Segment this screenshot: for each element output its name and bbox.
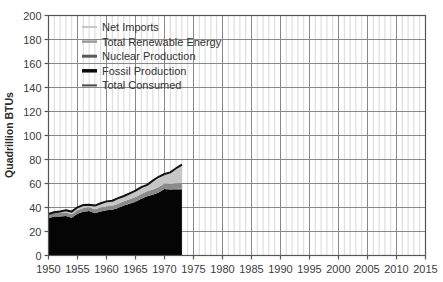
y-tick-label: 200: [23, 10, 41, 22]
x-tick-label: 2000: [326, 263, 350, 275]
y-tick-label: 80: [29, 154, 41, 166]
x-tick-label: 1985: [239, 263, 263, 275]
y-tick-label: 120: [23, 106, 41, 118]
legend-label: Nuclear Production: [102, 50, 196, 62]
y-tick-label: 140: [23, 82, 41, 94]
x-tick-label: 1980: [210, 263, 234, 275]
x-tick-label: 1975: [181, 263, 205, 275]
y-tick-label: 60: [29, 178, 41, 190]
x-tick-label: 1955: [65, 263, 89, 275]
x-tick-label: 2010: [384, 263, 408, 275]
legend-label: Net Imports: [102, 21, 159, 33]
y-tick-label: 180: [23, 34, 41, 46]
y-tick-label: 0: [35, 250, 41, 262]
y-tick-label: 160: [23, 58, 41, 70]
x-tick-label: 1965: [123, 263, 147, 275]
legend-label: Total Renewable Energy: [102, 36, 222, 48]
x-tick-label: 1960: [94, 263, 118, 275]
y-tick-label: 20: [29, 226, 41, 238]
chart-canvas: 020406080100120140160180200 195019551960…: [0, 0, 443, 282]
legend-label: Total Consumed: [102, 79, 182, 91]
x-tick-label: 1970: [152, 263, 176, 275]
y-axis-title: Quadrillion BTUs: [3, 92, 15, 178]
x-tick-label: 2015: [413, 263, 437, 275]
legend-label: Fossil Production: [102, 65, 186, 77]
x-tick-label: 1995: [297, 263, 321, 275]
x-tick-label: 1990: [268, 263, 292, 275]
y-tick-label: 40: [29, 202, 41, 214]
energy-chart: 020406080100120140160180200 195019551960…: [0, 0, 443, 282]
y-tick-label: 100: [23, 130, 41, 142]
x-tick-label: 1950: [36, 263, 60, 275]
x-tick-label: 2005: [355, 263, 379, 275]
